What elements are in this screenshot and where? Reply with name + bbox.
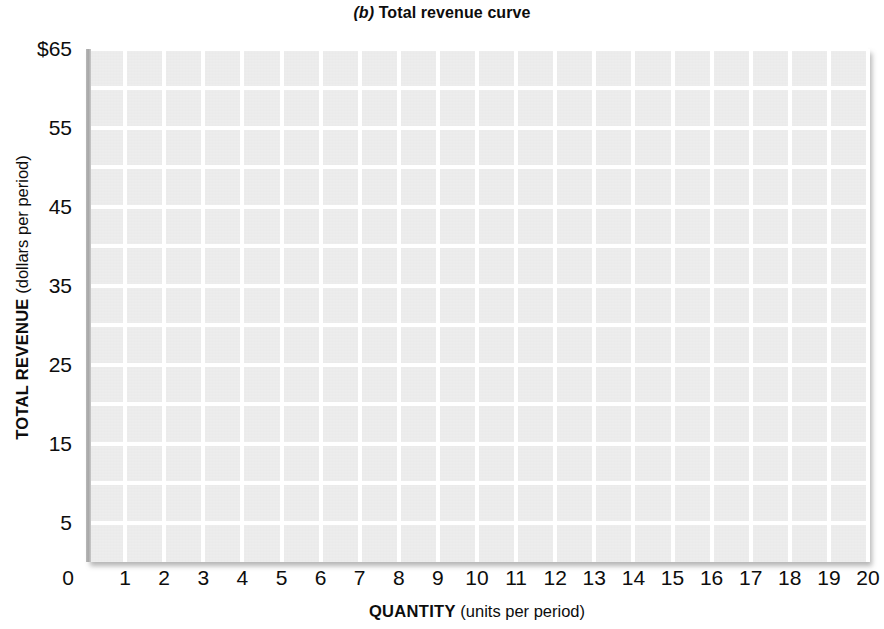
plot-area	[86, 49, 868, 562]
x-axis-tick-label: 19	[817, 566, 840, 590]
x-axis-tick-label: 14	[622, 566, 645, 590]
horizontal-gridline	[86, 126, 868, 130]
horizontal-gridline	[86, 205, 868, 209]
x-axis-tick-label: 8	[393, 566, 405, 590]
horizontal-gridline	[86, 47, 868, 51]
horizontal-gridline	[86, 521, 868, 525]
y-axis-title-strong: TOTAL REVENUE	[13, 298, 31, 439]
y-axis-tick-label: 25	[49, 353, 72, 377]
x-axis-tick-label: 4	[237, 566, 249, 590]
x-axis-title-strong: QUANTITY	[369, 602, 456, 620]
x-axis-tick-label: 0	[62, 566, 74, 590]
y-axis-tick-label: 15	[49, 432, 72, 456]
x-axis-tick-label: 18	[778, 566, 801, 590]
gridlines	[86, 49, 868, 562]
x-axis-tick-label: 15	[661, 566, 684, 590]
x-axis-tick-label: 16	[700, 566, 723, 590]
x-axis-tick-label: 5	[276, 566, 288, 590]
chart-title-text: Total revenue curve	[379, 4, 531, 21]
horizontal-gridline	[86, 165, 868, 169]
x-axis-title-unit: (units per period)	[460, 602, 585, 620]
y-axis-tick-label: 45	[49, 195, 72, 219]
chart-title: (b) Total revenue curve	[0, 4, 884, 22]
y-axis-rail	[86, 49, 91, 562]
x-axis-tick-label: 12	[544, 566, 567, 590]
horizontal-gridline	[86, 481, 868, 485]
horizontal-gridline	[86, 284, 868, 288]
y-axis-tick-label: 55	[49, 116, 72, 140]
horizontal-gridline	[86, 402, 868, 406]
horizontal-gridline	[86, 244, 868, 248]
x-axis-tick-label: 3	[197, 566, 209, 590]
y-axis-title: TOTAL REVENUE (dollars per period)	[13, 38, 32, 558]
x-axis-tick-label: 13	[583, 566, 606, 590]
horizontal-gridline	[86, 442, 868, 446]
horizontal-gridline	[86, 363, 868, 367]
y-axis-tick-label: 35	[49, 274, 72, 298]
horizontal-gridline	[86, 86, 868, 90]
x-axis-tick-label: 1	[119, 566, 131, 590]
panel-letter: (b)	[353, 4, 374, 21]
y-axis-title-unit: (dollars per period)	[13, 155, 31, 293]
x-axis-tick-label: 9	[432, 566, 444, 590]
x-axis-tick-label: 10	[465, 566, 488, 590]
x-axis-tick-label: 2	[158, 566, 170, 590]
x-axis-tick-label: 7	[354, 566, 366, 590]
x-axis-tick-label: 17	[739, 566, 762, 590]
y-axis-tick-label: $65	[37, 37, 72, 61]
x-axis-tick-label: 11	[505, 566, 527, 590]
x-axis-tick-labels: 01234567891011121314151617181920	[0, 566, 884, 598]
x-axis-title: QUANTITY (units per period)	[86, 602, 868, 621]
x-axis-tick-label: 6	[315, 566, 327, 590]
y-axis-title-space	[13, 294, 31, 299]
y-axis-tick-label: 5	[60, 511, 72, 535]
horizontal-gridline	[86, 323, 868, 327]
x-axis-tick-label: 20	[856, 566, 879, 590]
